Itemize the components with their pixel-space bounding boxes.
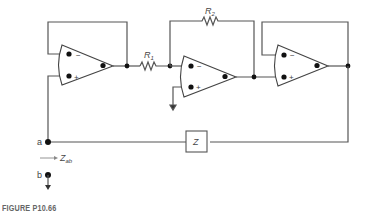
ground-arrow	[170, 105, 176, 110]
node-b-label: b	[37, 170, 42, 180]
opamp1-plus-terminal	[66, 73, 71, 78]
opamp3-minus-terminal	[281, 52, 286, 57]
opamp1-output-terminal	[100, 63, 105, 68]
opamp2-minus-sign: −	[197, 62, 202, 71]
node-b-ground-arrow	[45, 185, 51, 190]
opamp1-output-node	[125, 64, 130, 69]
opamp3-minus-sign: −	[290, 51, 295, 60]
r1-label: R1	[144, 50, 154, 61]
opamp2-minus-terminal	[188, 63, 193, 68]
r1-resistor	[140, 62, 170, 70]
circuit-diagram: − + R1 R2 − + − + Z a Zab b	[0, 0, 366, 219]
zab-arrowhead	[54, 156, 58, 160]
z-label: Z	[192, 137, 199, 147]
opamp1-plus-wire	[48, 76, 68, 142]
opamp3-plus-terminal	[281, 74, 286, 79]
opamp2-plus-terminal	[188, 84, 193, 89]
figure-caption: FIGURE P10.66	[2, 203, 56, 213]
opamp2-output-node	[252, 75, 257, 80]
opamp3-plus-sign: +	[289, 73, 294, 82]
opamp2-output-terminal	[222, 74, 227, 79]
opamp1-plus-sign: +	[74, 73, 79, 82]
node-a-label: a	[37, 137, 42, 147]
opamp-2	[181, 56, 237, 97]
node-a	[45, 139, 51, 145]
opamp3-output-terminal	[314, 63, 319, 68]
zab-label: Zab	[59, 153, 73, 164]
opamp1-minus-sign: −	[76, 51, 81, 60]
opamp2-plus-sign: +	[196, 83, 201, 92]
opamp1-minus-terminal	[66, 51, 71, 56]
r2-label: R2	[205, 6, 216, 17]
opamp-3	[275, 45, 329, 86]
